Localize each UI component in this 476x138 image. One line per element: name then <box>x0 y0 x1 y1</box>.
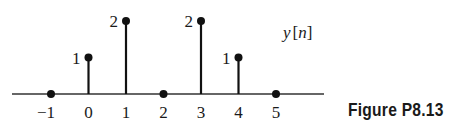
tick-label: 0 <box>84 103 93 122</box>
value-label: 1 <box>72 49 81 68</box>
tick-label: 5 <box>272 103 281 122</box>
stem-marker <box>160 90 168 98</box>
tick-labels-group: −1012345 <box>37 103 280 122</box>
signal-label: y[n] <box>281 23 312 42</box>
tick-label: −1 <box>37 103 55 122</box>
stem-marker <box>47 90 55 98</box>
stem-marker <box>235 54 243 62</box>
value-label: 2 <box>110 12 119 31</box>
tick-label: 1 <box>122 103 131 122</box>
value-label: 2 <box>185 12 194 31</box>
tick-label: 4 <box>234 103 243 122</box>
stems-group: 1221 <box>47 12 280 98</box>
stem-marker <box>272 90 280 98</box>
stem-marker <box>122 17 130 25</box>
tick-label: 3 <box>197 103 206 122</box>
value-label: 1 <box>222 49 231 68</box>
stem-marker <box>85 54 93 62</box>
tick-label: 2 <box>159 103 168 122</box>
stem-marker <box>197 17 205 25</box>
figure-caption: Figure P8.13 <box>348 99 444 121</box>
